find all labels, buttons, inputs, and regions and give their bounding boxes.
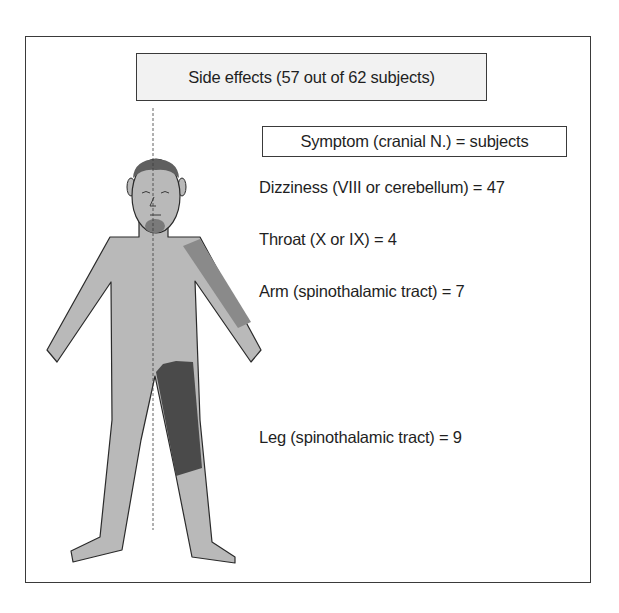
- throat-affected-region: [145, 219, 165, 233]
- symptom-leg: Leg (spinothalamic tract) = 9: [259, 428, 462, 447]
- legend-header: Symptom (cranial N.) = subjects: [262, 126, 567, 157]
- diagram-title: Side effects (57 out of 62 subjects): [136, 53, 487, 101]
- symptom-arm: Arm (spinothalamic tract) = 7: [259, 282, 465, 301]
- body-silhouette: [47, 214, 261, 563]
- symptom-dizziness: Dizziness (VIII or cerebellum) = 47: [259, 178, 505, 197]
- symptom-throat: Throat (X or IX) = 4: [259, 230, 397, 249]
